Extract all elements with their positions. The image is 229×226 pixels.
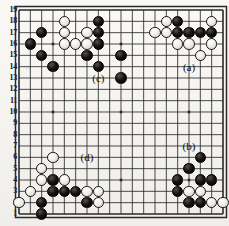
- black-stone[interactable]: [81, 50, 93, 62]
- white-stone[interactable]: [59, 38, 71, 50]
- black-stone[interactable]: [195, 152, 207, 164]
- white-stone[interactable]: [81, 186, 93, 198]
- white-stone[interactable]: [47, 152, 59, 164]
- black-stone[interactable]: [25, 38, 37, 50]
- problem-label-b: (b): [183, 140, 196, 152]
- black-stone[interactable]: [183, 163, 195, 175]
- black-stone[interactable]: [93, 16, 105, 28]
- black-stone[interactable]: [115, 50, 127, 62]
- white-stone[interactable]: [206, 38, 218, 50]
- black-stone[interactable]: [172, 174, 184, 186]
- white-stone[interactable]: [13, 197, 25, 209]
- problem-label-c: (c): [92, 72, 104, 84]
- black-stone[interactable]: [81, 197, 93, 209]
- white-stone[interactable]: [36, 174, 48, 186]
- black-stone[interactable]: [183, 27, 195, 39]
- white-stone[interactable]: [81, 27, 93, 39]
- white-stone[interactable]: [161, 16, 173, 28]
- white-stone[interactable]: [172, 38, 184, 50]
- black-stone[interactable]: [206, 174, 218, 186]
- black-stone[interactable]: [115, 72, 127, 84]
- black-stone[interactable]: [183, 197, 195, 209]
- black-stone[interactable]: [59, 186, 71, 198]
- black-stone[interactable]: [36, 208, 48, 220]
- black-stone[interactable]: [195, 174, 207, 186]
- white-stone[interactable]: [195, 186, 207, 198]
- white-stone[interactable]: [70, 38, 82, 50]
- white-stone[interactable]: [93, 186, 105, 198]
- white-stone[interactable]: [183, 186, 195, 198]
- white-stone[interactable]: [59, 16, 71, 28]
- white-stone[interactable]: [149, 27, 161, 39]
- black-stone[interactable]: [47, 61, 59, 73]
- white-stone[interactable]: [195, 50, 207, 62]
- white-stone[interactable]: [25, 186, 37, 198]
- white-stone[interactable]: [217, 197, 229, 209]
- white-stone[interactable]: [183, 38, 195, 50]
- white-stone[interactable]: [81, 38, 93, 50]
- black-stone[interactable]: [47, 174, 59, 186]
- white-stone[interactable]: [59, 174, 71, 186]
- go-problem-diagram: 19181716151413121110987654321 (a)(b)(c)(…: [0, 0, 229, 226]
- problem-label-d: (d): [81, 151, 94, 163]
- black-stone[interactable]: [93, 38, 105, 50]
- black-stone[interactable]: [47, 186, 59, 198]
- problem-label-a: (a): [183, 61, 195, 73]
